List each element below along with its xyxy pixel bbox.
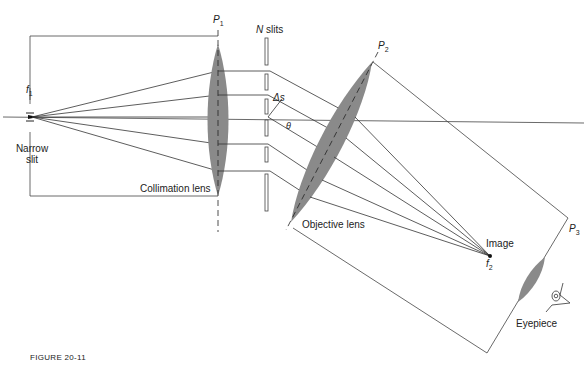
eyepiece-label: Eyepiece bbox=[516, 318, 557, 329]
figure-caption: FIGURE 20-11 bbox=[30, 352, 86, 363]
delta-s-label: Δs bbox=[273, 92, 285, 103]
theta-label: θ bbox=[286, 121, 291, 132]
image-label: Image bbox=[486, 238, 514, 249]
grating-slits bbox=[265, 38, 268, 211]
objective-lens-label: Objective lens bbox=[302, 219, 365, 230]
eye-icon bbox=[546, 283, 570, 312]
eyepiece-lens bbox=[518, 257, 545, 302]
f1-label: f1 bbox=[26, 84, 33, 96]
narrow-slit-label: Narrow slit bbox=[12, 143, 52, 165]
collimation-lens-label: Collimation lens bbox=[140, 183, 211, 194]
source-frame bbox=[30, 36, 218, 104]
f2-label: f2 bbox=[486, 258, 493, 270]
p2-label: P2 bbox=[378, 40, 389, 52]
p3-label: P3 bbox=[569, 223, 580, 235]
n-slits-label: N slits bbox=[256, 24, 283, 35]
diverging-rays bbox=[32, 71, 218, 171]
p1-label: P1 bbox=[213, 14, 224, 26]
spectrometer-diagram bbox=[0, 0, 584, 366]
optical-axis bbox=[3, 117, 584, 123]
objective-plane-axis bbox=[286, 52, 378, 230]
